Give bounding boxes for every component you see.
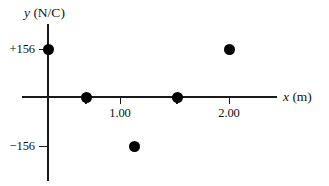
x-axis-title-unit: (m) [289, 89, 312, 104]
x-axis-tick-1 [120, 97, 121, 104]
y-axis-tick-label-negative: −156 [10, 140, 38, 153]
x-axis-tick-label-1: 1.00 [109, 107, 130, 120]
y-axis-title-unit: (N/C) [30, 5, 65, 20]
scatter-plot-figure: y (N/C) x (m) 1.00 2.00 +156 −156 [0, 0, 329, 186]
y-axis-title: y (N/C) [24, 6, 65, 20]
data-point [81, 92, 92, 103]
x-axis-tick-2 [229, 97, 230, 104]
data-point [224, 44, 235, 55]
y-axis-tick-label-positive: +156 [10, 43, 38, 56]
x-axis-line [22, 96, 277, 98]
data-point [129, 141, 140, 152]
x-axis-tick-label-2: 2.00 [218, 107, 239, 120]
y-axis-tick-negative [39, 146, 47, 147]
data-point [43, 44, 54, 55]
data-point [172, 92, 183, 103]
x-axis-title: x (m) [283, 90, 312, 104]
